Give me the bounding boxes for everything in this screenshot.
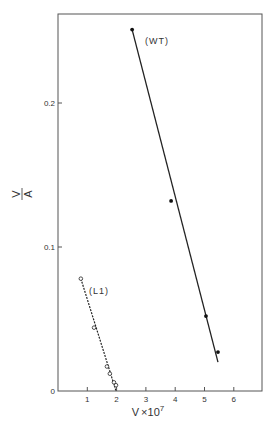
fit-line	[132, 30, 218, 363]
y-tick-label: 0	[51, 387, 56, 396]
x-axis-title: V×107	[132, 404, 165, 418]
plot-frame	[58, 14, 262, 391]
y-axis-title: V A	[10, 188, 34, 200]
x-tick-label: 3	[144, 395, 149, 404]
data-point	[108, 372, 112, 376]
series-labels: (WT)(L1)	[89, 36, 169, 296]
x-axis-title-times: ×10	[141, 406, 160, 418]
plot-border	[58, 14, 262, 391]
x-axis-title-exponent: 7	[160, 404, 165, 413]
x-tick-label: 4	[173, 395, 178, 404]
data-point	[105, 365, 109, 369]
series-label-l1: (L1)	[89, 286, 109, 296]
scatchard-plot: 123456 00.10.2 (WT)(L1) V×107 V A	[0, 0, 276, 428]
y-axis-title-denominator: A	[22, 190, 34, 198]
y-axis-title-numerator: V	[10, 190, 22, 198]
x-tick-label: 6	[232, 395, 237, 404]
x-axis-ticks: 123456	[85, 387, 237, 404]
data-series	[79, 28, 220, 391]
y-tick-label: 0.1	[44, 243, 56, 252]
series-label-wt: (WT)	[145, 36, 169, 46]
data-point	[92, 326, 96, 330]
x-axis-title-var: V	[132, 406, 140, 418]
data-point	[204, 314, 208, 318]
y-tick-label: 0.2	[44, 99, 56, 108]
x-tick-label: 2	[114, 395, 119, 404]
data-point	[169, 199, 173, 203]
data-point	[79, 277, 83, 281]
series-wt	[130, 28, 220, 363]
y-axis-ticks: 00.10.2	[44, 99, 62, 396]
data-point	[130, 28, 134, 32]
x-tick-label: 5	[202, 395, 207, 404]
x-tick-label: 1	[85, 395, 90, 404]
data-point	[216, 350, 220, 354]
data-point	[114, 383, 118, 387]
